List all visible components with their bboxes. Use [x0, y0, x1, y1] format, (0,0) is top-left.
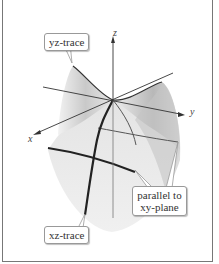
xz-trace-label: xz-trace: [49, 229, 84, 241]
x-axis-label: x: [28, 133, 32, 144]
z-axis-label: z: [113, 27, 117, 38]
xz-trace-callout: xz-trace: [44, 226, 89, 244]
yz-trace-callout: yz-trace: [44, 33, 89, 51]
parallel-label-line1: parallel to: [137, 189, 182, 201]
y-axis-label: y: [190, 106, 194, 117]
parallel-label-line2: xy-plane: [137, 201, 182, 213]
yz-trace-label: yz-trace: [49, 36, 84, 48]
parallel-plane-callout: parallel to xy-plane: [132, 186, 187, 216]
saddle-surface-diagram: [0, 0, 219, 264]
